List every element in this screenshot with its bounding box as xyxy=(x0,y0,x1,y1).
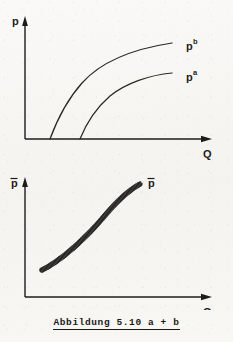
chart-a-series-label-pb-sup: b xyxy=(193,37,198,46)
chart-b-curve-pbar-outline xyxy=(42,184,140,270)
chart-a-x-axis-arrowhead xyxy=(201,136,212,143)
figure-caption-wrap: Abbildung 5.10 a + b xyxy=(0,311,233,330)
chart-b-series-label-pbar: p xyxy=(148,177,156,189)
chart-b-y-axis-label: p xyxy=(11,177,19,189)
chart-a-curve-pa xyxy=(80,73,172,139)
chart-a: p Q p b p a xyxy=(0,0,233,171)
chart-a-curve-pb xyxy=(50,43,172,139)
chart-a-series-label-pa: p a xyxy=(186,68,198,83)
figure-caption: Abbildung 5.10 a + b xyxy=(53,317,179,330)
figure-page: p Q p b p a xyxy=(0,0,233,342)
chart-b-canvas: p Q p xyxy=(0,160,233,310)
chart-a-series-label-pa-sup: a xyxy=(193,68,198,77)
chart-b-x-axis-label: Q xyxy=(203,306,212,310)
chart-b: p Q p xyxy=(0,160,233,310)
chart-a-y-axis-arrowhead xyxy=(22,16,28,26)
chart-a-series-label-pb-base: p xyxy=(186,40,193,52)
chart-b-y-axis-arrowhead xyxy=(22,177,28,187)
chart-b-x-axis-arrowhead xyxy=(201,294,212,301)
chart-a-x-axis-label: Q xyxy=(203,148,212,160)
chart-a-y-axis-label: p xyxy=(12,15,19,27)
chart-a-series-label-pb: p b xyxy=(186,37,198,52)
chart-a-series-label-pa-base: p xyxy=(186,71,193,83)
chart-a-canvas: p Q p b p a xyxy=(0,0,233,171)
